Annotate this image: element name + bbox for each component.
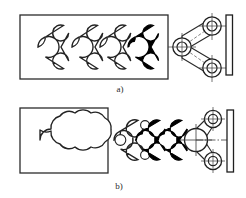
panel-a (20, 13, 233, 82)
panel-b-caption: b) (115, 181, 123, 191)
link-position-2 (72, 25, 103, 69)
ground-wall-plate-b (227, 110, 234, 172)
link-position-3 (100, 25, 131, 69)
fixed-frame-bracket-b (180, 107, 234, 173)
ground-wall-plate-a (226, 15, 233, 75)
link-position-4-highlighted (128, 25, 165, 69)
panel-a-caption: a) (117, 84, 124, 94)
fixed-frame-bracket-a (168, 13, 233, 82)
swept-envelope-outline (40, 110, 111, 150)
figure-canvas: a) (0, 0, 246, 198)
link-position-1 (38, 25, 69, 69)
panel-b (20, 107, 234, 173)
